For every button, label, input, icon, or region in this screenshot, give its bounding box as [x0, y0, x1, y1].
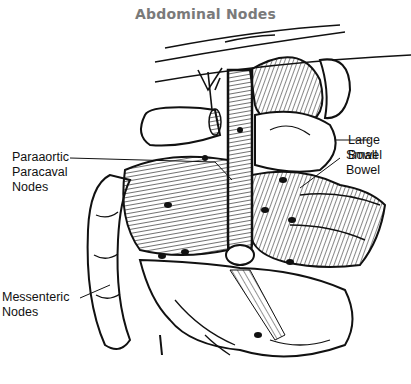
lymph-node — [254, 332, 262, 338]
mesentery — [140, 260, 353, 356]
label-nodes-line3: Nodes — [12, 180, 69, 195]
label-messenteric-line1: Messenteric — [2, 290, 69, 305]
lymph-node — [164, 202, 172, 208]
lymph-node — [158, 253, 166, 259]
lymph-node — [202, 155, 208, 161]
label-messenteric-line2: Nodes — [2, 305, 69, 320]
lymph-node — [237, 127, 243, 133]
label-paracaval-line2: Paracaval — [12, 165, 69, 180]
label-paraaortic: Paraaortic Paracaval Nodes — [12, 150, 69, 195]
label-messenteric: Messenteric Nodes — [2, 290, 69, 320]
aorta-vena-cava — [226, 70, 254, 265]
lymph-node — [288, 217, 296, 223]
label-paraaortic-line1: Paraaortic — [12, 150, 69, 165]
lymph-node — [181, 249, 189, 255]
small-bowel-right — [252, 172, 385, 267]
lymph-node — [286, 259, 294, 265]
lymph-node — [261, 207, 269, 213]
small-bowel-left — [123, 157, 228, 255]
label-small-bowel: Small Bowel — [346, 148, 411, 178]
lymph-node — [279, 177, 287, 183]
